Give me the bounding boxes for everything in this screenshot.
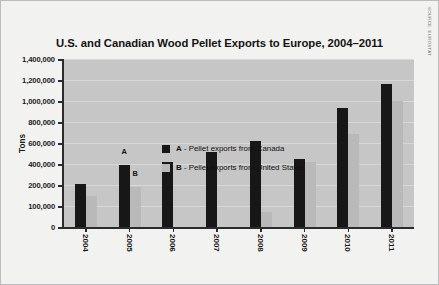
- gridline: [64, 80, 414, 81]
- x-axis-label-2011: 2011: [387, 234, 396, 251]
- bar-b-2009: [305, 162, 316, 227]
- x-tick-mark: [129, 227, 131, 232]
- legend-label-b: B - Pellet exports from United States: [176, 163, 304, 172]
- y-tick-mark: [58, 164, 63, 166]
- y-tick-mark: [58, 185, 63, 187]
- chart-figure: SOURCE: EUROSTAT U.S. and Canadian Wood …: [0, 0, 439, 285]
- x-axis-label-2004: 2004: [81, 234, 90, 252]
- y-axis-label: 800,000: [28, 118, 55, 127]
- gridline: [64, 122, 414, 123]
- x-axis-label-2008: 2008: [256, 234, 265, 252]
- x-axis-label-2009: 2009: [300, 234, 309, 252]
- legend-item-a: A - Pellet exports from Canada: [162, 144, 304, 153]
- y-tick-mark: [58, 101, 63, 103]
- y-axis-label: 1,200,000: [22, 76, 55, 85]
- y-tick-mark: [58, 143, 63, 145]
- x-tick-mark: [260, 227, 262, 232]
- x-tick-mark: [304, 227, 306, 232]
- bar-group: AB2005: [119, 59, 141, 227]
- bar-a-2011: [381, 84, 392, 227]
- x-tick-mark: [85, 227, 87, 232]
- plot-area: 1,400,0001,200,0001,000,000800,000600,00…: [62, 59, 414, 229]
- y-axis-label: 200,000: [28, 181, 55, 190]
- chart-legend: A - Pellet exports from CanadaB - Pellet…: [162, 144, 304, 182]
- bar-group: 2008: [250, 59, 272, 227]
- bar-b-2005: [130, 187, 141, 227]
- y-tick-mark: [58, 80, 63, 82]
- bar-annotation-A: A: [121, 147, 126, 156]
- bar-group: 2010: [337, 59, 359, 227]
- x-tick-mark: [391, 227, 393, 232]
- gridline: [64, 101, 414, 102]
- gridline: [64, 59, 414, 60]
- gridline: [64, 206, 414, 207]
- x-axis-label-2010: 2010: [343, 234, 352, 252]
- y-tick-mark: [58, 227, 63, 229]
- y-axis-label: 600,000: [28, 139, 55, 148]
- bar-b-2010: [348, 134, 359, 227]
- gridline: [64, 185, 414, 186]
- x-tick-mark: [216, 227, 218, 232]
- bar-a-2010: [337, 108, 348, 227]
- x-tick-mark: [173, 227, 175, 232]
- bar-b-2008: [261, 212, 272, 227]
- y-axis-title-text: Tons: [18, 134, 27, 153]
- x-axis-label-2006: 2006: [168, 234, 177, 252]
- y-axis-label: 0: [51, 223, 55, 232]
- bar-group: 2011: [381, 59, 403, 227]
- bar-a-2004: [75, 184, 86, 227]
- y-tick-mark: [58, 122, 63, 124]
- bar-group: 2004: [75, 59, 97, 227]
- x-tick-mark: [348, 227, 350, 232]
- y-axis-label: 1,000,000: [22, 97, 55, 106]
- bar-annotation-B: B: [132, 169, 137, 178]
- bar-a-2005: [119, 165, 130, 227]
- y-axis-label: 100,000: [28, 202, 55, 211]
- x-axis-label-2005: 2005: [125, 234, 134, 252]
- legend-label-a: A - Pellet exports from Canada: [176, 144, 284, 153]
- bar-group: 2009: [294, 59, 316, 227]
- y-axis-label: 1,400,000: [22, 55, 55, 64]
- bar-b-2011: [392, 101, 403, 227]
- bar-group: 2007: [206, 59, 228, 227]
- legend-swatch-b: [162, 164, 170, 172]
- legend-item-b: B - Pellet exports from United States: [162, 163, 304, 172]
- y-axis-label: 400,000: [28, 160, 55, 169]
- bar-group: 2006: [162, 59, 184, 227]
- x-axis-label-2007: 2007: [212, 234, 221, 252]
- y-tick-mark: [58, 59, 63, 61]
- chart-title: U.S. and Canadian Wood Pellet Exports to…: [1, 37, 438, 49]
- bar-b-2004: [86, 196, 97, 228]
- legend-swatch-a: [162, 145, 170, 153]
- y-tick-mark: [58, 206, 63, 208]
